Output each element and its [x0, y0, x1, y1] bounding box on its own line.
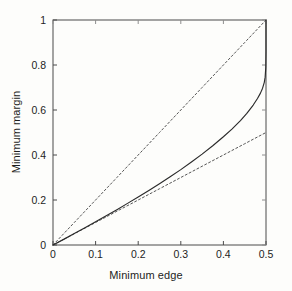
x-tick-label: 0.1: [88, 248, 103, 260]
x-tick-label: 0: [50, 248, 56, 260]
y-axis-label: Minimum margin: [10, 72, 22, 192]
y-tick-label: 0.4: [31, 149, 46, 161]
series-upper-bound-dashed: [53, 20, 266, 245]
y-tick-label: 0.8: [31, 59, 46, 71]
y-tick-label: 0.2: [31, 194, 46, 206]
x-tick-label: 0.4: [216, 248, 231, 260]
x-tick-label: 0.3: [173, 248, 188, 260]
y-tick-label: 0.6: [31, 104, 46, 116]
x-tick-label: 0.5: [259, 248, 274, 260]
x-axis-label: Minimum edge: [0, 269, 292, 281]
y-tick-label: 1: [40, 14, 46, 26]
figure-container: Minimum edge Minimum margin 00.10.20.30.…: [0, 0, 292, 291]
x-tick-label: 0.2: [131, 248, 146, 260]
data-series-group: [53, 20, 266, 245]
y-tick-label: 0: [40, 239, 46, 251]
